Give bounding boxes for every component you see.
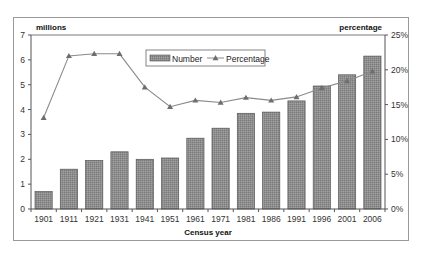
legend-number-label: Number (172, 54, 202, 64)
x-tick-label: 2001 (338, 214, 357, 224)
x-tick-label: 1981 (236, 214, 255, 224)
combo-chart: 012345670%5%10%15%20%25%1901191119211931… (0, 0, 425, 258)
x-tick-label: 1941 (135, 214, 154, 224)
right-tick-label: 20% (391, 65, 408, 75)
left-tick-label: 1 (20, 179, 25, 189)
left-tick-label: 2 (20, 154, 25, 164)
triangle-marker-icon (243, 95, 249, 100)
bar-series-number (35, 56, 381, 209)
bar-1941 (136, 159, 153, 209)
x-tick-label: 1931 (110, 214, 129, 224)
triangle-marker-icon (41, 115, 47, 120)
x-axis-title: Census year (184, 228, 232, 237)
right-tick-label: 25% (391, 30, 408, 40)
x-tick-label: 1961 (186, 214, 205, 224)
left-tick-label: 4 (20, 105, 25, 115)
bar-2001 (339, 75, 356, 209)
left-axis-title: millions (36, 23, 67, 32)
bar-1991 (288, 101, 305, 209)
legend: Number Percentage (146, 50, 270, 66)
legend-percentage-label: Percentage (226, 54, 270, 64)
left-tick-label: 3 (20, 129, 25, 139)
x-tick-label: 1991 (287, 214, 306, 224)
left-tick-label: 6 (20, 55, 25, 65)
x-tick-label: 1971 (211, 214, 230, 224)
bar-1931 (111, 152, 128, 209)
bar-1901 (35, 192, 52, 209)
left-tick-label: 5 (20, 80, 25, 90)
bar-1951 (162, 158, 179, 209)
bar-1971 (212, 128, 229, 209)
bar-1961 (187, 138, 204, 209)
x-tick-label: 1901 (34, 214, 53, 224)
x-tick-label: 1996 (312, 214, 331, 224)
x-tick-label: 1986 (262, 214, 281, 224)
legend-bar-swatch-icon (150, 55, 170, 61)
right-tick-label: 10% (391, 134, 408, 144)
bar-1911 (60, 169, 77, 209)
bar-1996 (313, 86, 330, 209)
left-tick-label: 7 (20, 30, 25, 40)
right-axis-title: percentage (339, 23, 382, 32)
x-tick-label: 1911 (60, 214, 79, 224)
bar-2006 (364, 56, 381, 209)
x-tick-label: 1921 (85, 214, 104, 224)
left-tick-label: 0 (20, 204, 25, 214)
right-tick-label: 5% (391, 169, 404, 179)
right-tick-label: 0% (391, 204, 404, 214)
right-tick-label: 15% (391, 100, 408, 110)
bar-1981 (237, 113, 254, 209)
x-tick-label: 1951 (161, 214, 180, 224)
bar-1921 (86, 161, 103, 210)
bar-1986 (263, 112, 280, 209)
x-tick-label: 2006 (363, 214, 382, 224)
